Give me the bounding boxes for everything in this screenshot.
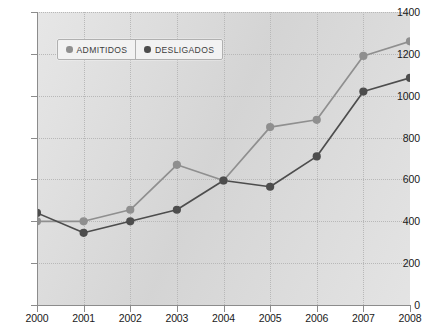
data-point-desligados-2005[interactable] [266, 183, 274, 191]
chart-legend: ADMITIDOS DESLIGADOS [57, 39, 223, 60]
legend-item-desligados[interactable]: DESLIGADOS [135, 40, 222, 59]
x-axis-tick-label: 2008 [386, 312, 426, 324]
x-axis-tick-mark [84, 305, 85, 312]
series-line-admitidos [37, 41, 410, 221]
x-axis-tick-mark [224, 305, 225, 312]
x-axis-tick-label: 2002 [106, 312, 154, 324]
x-axis-tick-mark [317, 305, 318, 312]
y-axis-tick-label: 400 [387, 215, 420, 227]
y-axis-tick-label: 200 [387, 257, 420, 269]
data-point-admitidos-2005[interactable] [266, 123, 274, 131]
x-axis-tick-mark [37, 305, 38, 312]
data-point-admitidos-2007[interactable] [359, 52, 367, 60]
data-point-admitidos-2002[interactable] [126, 206, 134, 214]
y-axis-tick-label: 800 [387, 132, 420, 144]
data-point-admitidos-2001[interactable] [80, 217, 88, 225]
x-axis-tick-mark [130, 305, 131, 312]
legend-item-admitidos[interactable]: ADMITIDOS [58, 40, 135, 59]
data-point-desligados-2002[interactable] [126, 217, 134, 225]
y-axis-tick-mark [31, 54, 37, 55]
data-point-admitidos-2008[interactable] [406, 37, 410, 45]
y-axis-tick-label: 1400 [387, 6, 420, 18]
y-axis-tick-mark [31, 221, 37, 222]
legend-dot-icon-desligados [144, 46, 151, 53]
data-point-admitidos-2006[interactable] [313, 116, 321, 124]
data-point-desligados-2006[interactable] [313, 152, 321, 160]
x-axis-tick-label: 2003 [153, 312, 201, 324]
data-point-desligados-2004[interactable] [219, 176, 227, 184]
data-point-desligados-2008[interactable] [406, 74, 410, 82]
x-axis-tick-label: 2001 [60, 312, 108, 324]
series-line-desligados [37, 78, 410, 233]
y-axis-tick-mark [31, 179, 37, 180]
y-axis-tick-mark [31, 138, 37, 139]
x-axis-tick-label: 2000 [13, 312, 61, 324]
y-axis-line [37, 12, 38, 305]
y-axis-tick-label: 1200 [387, 48, 420, 60]
x-axis-tick-label: 2007 [339, 312, 387, 324]
x-axis-tick-mark [363, 305, 364, 312]
x-axis-tick-mark [410, 305, 411, 312]
data-point-desligados-2007[interactable] [359, 87, 367, 95]
legend-label-admitidos: ADMITIDOS [77, 45, 128, 55]
legend-label-desligados: DESLIGADOS [155, 45, 214, 55]
y-axis-tick-mark [31, 263, 37, 264]
y-axis-tick-mark [31, 12, 37, 13]
x-axis-tick-label: 2006 [293, 312, 341, 324]
data-point-admitidos-2003[interactable] [173, 161, 181, 169]
data-point-desligados-2003[interactable] [173, 206, 181, 214]
x-axis-tick-mark [270, 305, 271, 312]
y-axis-tick-label: 600 [387, 173, 420, 185]
y-axis-tick-label: 0 [387, 299, 420, 311]
legend-dot-icon-admitidos [66, 46, 73, 53]
data-point-desligados-2001[interactable] [80, 229, 88, 237]
x-axis-tick-mark [177, 305, 178, 312]
x-axis-tick-label: 2004 [200, 312, 248, 324]
x-axis-tick-label: 2005 [246, 312, 294, 324]
y-axis-tick-mark [31, 96, 37, 97]
y-axis-tick-label: 1000 [387, 90, 420, 102]
